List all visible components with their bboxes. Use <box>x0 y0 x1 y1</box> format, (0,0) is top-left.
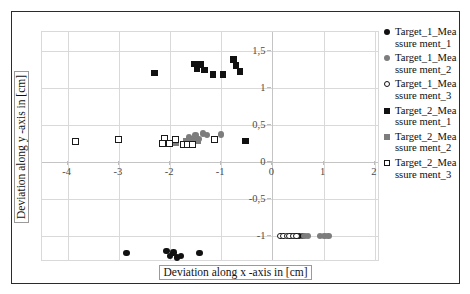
gridline-x <box>221 32 222 260</box>
x-axis-title-text: Deviation along x -axis in [cm] <box>159 265 311 280</box>
y-tick-label: 0 <box>239 155 265 166</box>
circle-filled-black-icon <box>384 29 390 35</box>
legend-entry-label: Target_2_Meassure ment_1 <box>395 105 456 128</box>
y-axis-title-text: Deviation along y -axis in [cm] <box>14 70 29 222</box>
y-tickmark <box>267 198 271 199</box>
data-point <box>151 70 158 77</box>
gridline-y <box>42 125 378 126</box>
legend-entry[interactable]: Target_2_Meassure ment_2 <box>384 131 458 154</box>
chart-legend: Target_1_Meassure ment_1Target_1_Meassur… <box>384 26 458 281</box>
y-axis-title: Deviation along y -axis in [cm] <box>14 70 29 224</box>
data-point <box>178 253 185 260</box>
x-tick-label: 2 <box>371 166 376 177</box>
legend-entry[interactable]: Target_1_Meassure ment_1 <box>384 26 458 49</box>
legend-entry-label: Target_2_Meassure ment_2 <box>395 131 456 154</box>
data-point <box>123 250 130 257</box>
y-tickmark <box>267 161 271 162</box>
gridline-x <box>324 32 325 260</box>
data-point <box>210 71 217 78</box>
data-point <box>237 68 244 75</box>
square-open-icon <box>384 160 390 166</box>
x-tickmark <box>220 161 221 165</box>
x-tickmark <box>271 161 272 165</box>
data-point <box>218 131 225 138</box>
data-point <box>242 138 249 145</box>
gridline-x <box>119 32 120 260</box>
x-tickmark <box>169 161 170 165</box>
y-tickmark <box>267 124 271 125</box>
legend-entry-label: Target_1_Meassure ment_3 <box>395 78 456 101</box>
x-tickmark <box>118 161 119 165</box>
square-filled-gray-icon <box>384 134 390 140</box>
data-point <box>211 136 218 143</box>
y-tick-label: 0,5 <box>239 118 265 129</box>
legend-entry-label: Target_1_Meassure ment_1 <box>395 26 456 49</box>
data-point <box>115 136 122 143</box>
x-tick-label: -4 <box>62 166 71 177</box>
x-axis-zero-line <box>42 162 378 163</box>
y-tick-label: -1 <box>239 230 265 241</box>
gridline-y <box>42 51 378 52</box>
data-point <box>204 132 211 139</box>
legend-entry-label: Target_1_Meassure ment_2 <box>395 52 456 75</box>
x-tickmark <box>374 161 375 165</box>
y-axis-zero-line <box>272 32 273 260</box>
gridline-y <box>42 88 378 89</box>
legend-entry-label: Target_2_Meassure ment_3 <box>395 157 456 180</box>
data-point <box>305 233 312 240</box>
x-tick-label: -1 <box>216 166 225 177</box>
x-tick-label: 0 <box>269 166 274 177</box>
y-tickmark <box>267 87 271 88</box>
chart-figure: Deviation along x -axis in [cm] Deviatio… <box>0 0 470 294</box>
y-tick-label: -0,5 <box>239 192 265 203</box>
y-tickmark <box>267 235 271 236</box>
legend-entry[interactable]: Target_2_Meassure ment_1 <box>384 105 458 128</box>
plot-area <box>41 31 379 261</box>
x-tick-label: 1 <box>320 166 325 177</box>
gridline-y <box>42 199 378 200</box>
legend-entry[interactable]: Target_1_Meassure ment_2 <box>384 52 458 75</box>
x-tickmark <box>67 161 68 165</box>
gridline-x <box>68 32 69 260</box>
x-tick-label: -3 <box>113 166 122 177</box>
legend-entry[interactable]: Target_2_Meassure ment_3 <box>384 157 458 180</box>
data-point <box>293 233 300 240</box>
data-point <box>172 136 179 143</box>
circle-open-icon <box>384 81 390 87</box>
circle-filled-gray-icon <box>384 55 390 61</box>
x-tick-label: -2 <box>165 166 174 177</box>
y-tick-label: 1,5 <box>239 44 265 55</box>
square-filled-black-icon <box>384 108 390 114</box>
data-point <box>220 71 227 78</box>
data-point <box>189 141 196 148</box>
chart-frame: Deviation along x -axis in [cm] Deviatio… <box>11 11 460 284</box>
y-tickmark <box>267 50 271 51</box>
data-point <box>325 233 332 240</box>
x-tickmark <box>323 161 324 165</box>
data-point <box>196 250 203 257</box>
data-point <box>201 67 208 74</box>
legend-entry[interactable]: Target_1_Meassure ment_3 <box>384 78 458 101</box>
gridline-x <box>375 32 376 260</box>
y-tick-label: 1 <box>239 81 265 92</box>
data-point <box>159 140 166 147</box>
data-point <box>72 138 79 145</box>
